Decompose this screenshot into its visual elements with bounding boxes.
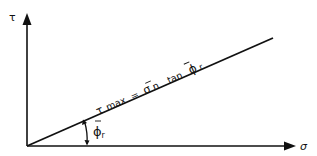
- angle-arc-bottom-arrow-icon: [85, 140, 90, 146]
- tau-axis-label: τ: [9, 11, 16, 24]
- svg-text:τ max = σ: τ max = σ n tan ϕ r: [94, 58, 206, 117]
- eq-tan: tan: [165, 69, 184, 85]
- angle-phi: ϕ: [93, 124, 102, 139]
- angle-phi-sub: r: [102, 131, 106, 140]
- envelope-equation: τ max = σ n tan ϕ r: [93, 57, 205, 117]
- failure-envelope-diagram: τ σ τ max = σ n tan ϕ r ϕr: [0, 0, 317, 156]
- eq-phi-sub: r: [198, 62, 205, 72]
- sigma-axis-arrowhead-icon: [284, 142, 296, 151]
- eq-sigma-sub: n: [151, 80, 161, 92]
- tau-axis-arrowhead-icon: [23, 13, 32, 25]
- eq-tau-sub: max: [104, 94, 128, 113]
- sigma-axis-label: σ: [300, 140, 308, 153]
- angle-label: ϕr: [93, 124, 106, 140]
